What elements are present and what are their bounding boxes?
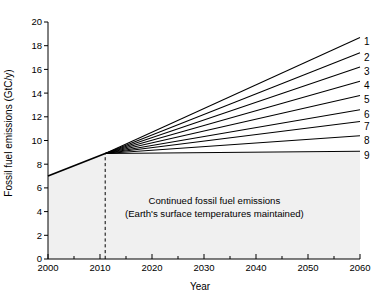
y-axis-title: Fossil fuel emissions (GtC/y) <box>3 69 14 196</box>
y-tick-label: 8 <box>37 159 42 170</box>
scenario-line-4 <box>105 81 360 153</box>
fossil-fuel-emissions-chart: 02468101214161820 2000201020202030204020… <box>0 0 392 297</box>
scenario-line-7 <box>105 122 360 154</box>
y-tick-label: 20 <box>31 16 42 27</box>
y-tick-label: 6 <box>37 182 42 193</box>
scenario-label-2: 2 <box>364 52 370 63</box>
x-tick-label: 2000 <box>37 262 58 273</box>
scenario-lines <box>105 37 360 153</box>
y-tick-label: 18 <box>31 40 42 51</box>
scenario-endpoint-labels: 123456789 <box>364 36 370 161</box>
x-tick-label: 2040 <box>245 262 266 273</box>
x-tick-label: 2010 <box>89 262 110 273</box>
scenario-line-3 <box>105 67 360 154</box>
x-tick-label: 2020 <box>141 262 162 273</box>
y-tick-label: 4 <box>37 206 42 217</box>
scenario-line-6 <box>105 110 360 154</box>
scenario-label-4: 4 <box>364 80 370 91</box>
chart-canvas: 02468101214161820 2000201020202030204020… <box>0 0 392 297</box>
x-axis-title: Year <box>190 281 211 292</box>
scenario-line-1 <box>105 37 360 153</box>
y-tick-label: 16 <box>31 64 42 75</box>
continued-emissions-note: Continued fossil fuel emissions(Earth's … <box>125 195 304 219</box>
y-tick-label: 12 <box>31 111 42 122</box>
scenario-label-7: 7 <box>364 121 370 132</box>
y-tick-label: 14 <box>31 88 42 99</box>
y-tick-label: 10 <box>31 135 42 146</box>
scenario-label-6: 6 <box>364 109 370 120</box>
scenario-label-3: 3 <box>364 66 370 77</box>
x-tick-label: 2030 <box>193 262 214 273</box>
scenario-label-8: 8 <box>364 135 370 146</box>
scenario-label-5: 5 <box>364 94 370 105</box>
y-axis-ticks: 02468101214161820 <box>31 16 48 264</box>
x-tick-label: 2050 <box>297 262 318 273</box>
scenario-label-1: 1 <box>364 36 370 47</box>
annotation-text: Continued fossil fuel emissions(Earth's … <box>125 195 304 219</box>
x-tick-label: 2060 <box>349 262 370 273</box>
annotation-line: (Earth's surface temperatures maintained… <box>125 208 304 219</box>
scenario-label-9: 9 <box>364 150 370 161</box>
annotation-line: Continued fossil fuel emissions <box>149 195 281 206</box>
y-tick-label: 2 <box>37 230 42 241</box>
